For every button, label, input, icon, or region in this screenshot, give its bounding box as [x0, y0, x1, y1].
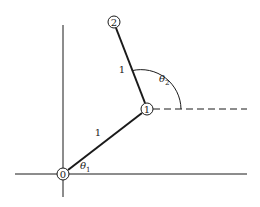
- joint-1-label: 1: [144, 104, 150, 115]
- link-2-length-label: 1: [119, 64, 125, 75]
- link-1-length-label: 1: [95, 127, 101, 138]
- diagram-svg: 0 1 2 1 1 θ1 θ2: [0, 0, 260, 207]
- theta1-label: θ1: [80, 160, 91, 174]
- joint-0: 0: [57, 168, 69, 180]
- joint-2-label: 2: [111, 17, 117, 28]
- robot-arm-diagram: 0 1 2 1 1 θ1 θ2: [0, 0, 260, 207]
- joint-0-label: 0: [60, 169, 66, 180]
- theta2-label: θ2: [159, 73, 170, 87]
- joint-1: 1: [141, 103, 153, 115]
- joint-2: 2: [108, 16, 120, 28]
